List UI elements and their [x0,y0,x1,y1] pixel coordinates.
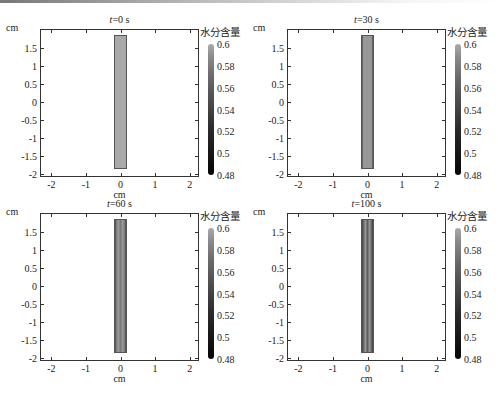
y-tick-mark [288,358,291,359]
x-tick-mark [86,214,87,217]
x-tick-mark [190,357,191,360]
x-tick-mark [86,30,87,33]
colorbar-tick-label: 0.54 [464,288,482,299]
y-tick-label: -2 [276,353,284,364]
y-tick-mark [442,358,445,359]
y-tick-label: -1.5 [21,151,37,162]
y-tick-label: 1.5 [25,43,38,54]
y-tick-mark [442,340,445,341]
y-tick-label: 1.5 [272,43,285,54]
colorbar-tick-label: 0.5 [217,148,230,159]
y-tick-label: -1.5 [268,335,284,346]
x-tick-mark [190,30,191,33]
x-tick-mark [402,214,403,217]
y-tick-mark [41,232,44,233]
y-tick-mark [442,84,445,85]
y-tick-mark [195,340,198,341]
x-tick-mark [155,214,156,217]
time-value: =0 s [112,14,129,25]
y-tick-mark [195,48,198,49]
y-tick-mark [288,174,291,175]
y-tick-mark [288,304,291,305]
plot-area: -2-10121.510.50-0.5-1-1.5-2 [287,29,446,177]
y-tick-label: -2 [29,353,37,364]
y-tick-mark [442,156,445,157]
y-tick-mark [442,304,445,305]
y-tick-label: 1 [279,245,284,256]
y-tick-mark [288,138,291,139]
colorbar-tick-label: 0.58 [217,60,235,71]
x-tick-mark [402,30,403,33]
y-tick-label: -1 [276,133,284,144]
y-tick-mark [195,174,198,175]
x-tick-mark [51,357,52,360]
y-tick-label: -0.5 [21,299,37,310]
y-tick-mark [41,84,44,85]
y-tick-mark [442,138,445,139]
y-tick-mark [41,286,44,287]
x-tick-mark [437,357,438,360]
y-tick-mark [41,358,44,359]
colorbar-tick-label: 0.5 [464,148,477,159]
x-tick-mark [402,357,403,360]
x-tick-mark [121,30,122,33]
y-tick-mark [41,102,44,103]
x-tick-mark [333,214,334,217]
y-tick-mark [41,138,44,139]
y-tick-mark [442,48,445,49]
y-tick-mark [195,138,198,139]
colorbar-label: 水分含量 [447,208,487,223]
x-tick-mark [86,173,87,176]
y-tick-mark [195,232,198,233]
y-tick-label: 1 [32,61,37,72]
colorbar-tick-label: 0.6 [464,223,477,234]
y-tick-label: 0.5 [25,79,38,90]
colorbar [455,44,461,175]
panel-title: t=100 s [287,198,446,209]
x-tick-mark [298,30,299,33]
y-tick-mark [442,268,445,269]
y-tick-mark [195,66,198,67]
chart-panel: t=30 s cm -2-10121.510.50-0.5-1-1.5-2 cm… [247,0,498,190]
colorbar-tick-label: 0.5 [464,332,477,343]
sample-moisture-field [114,35,128,169]
y-tick-label: -1.5 [268,151,284,162]
y-tick-mark [195,84,198,85]
y-tick-mark [41,174,44,175]
colorbar [455,228,461,359]
y-tick-mark [288,268,291,269]
x-tick-mark [333,173,334,176]
y-tick-label: 1 [32,245,37,256]
colorbar-label: 水分含量 [200,24,240,39]
x-tick-mark [333,30,334,33]
y-tick-label: 0 [279,97,284,108]
x-axis-label: cm [40,373,199,384]
x-tick-mark [298,357,299,360]
y-tick-mark [41,268,44,269]
colorbar-tick-label: 0.56 [217,266,235,277]
colorbar-tick-label: 0.52 [464,126,482,137]
colorbar-tick-label: 0.5 [217,332,230,343]
colorbar-tick-label: 0.48 [217,354,235,365]
chart-panel: t=100 s cm -2-10121.510.50-0.5-1-1.5-2 c… [247,184,498,374]
y-tick-mark [195,322,198,323]
y-tick-mark [41,66,44,67]
x-tick-mark [368,30,369,33]
y-tick-mark [41,322,44,323]
y-tick-mark [442,286,445,287]
y-tick-mark [442,120,445,121]
colorbar-tick-label: 0.52 [217,126,235,137]
y-tick-mark [41,304,44,305]
y-tick-mark [195,250,198,251]
x-tick-mark [51,30,52,33]
x-tick-mark [437,214,438,217]
y-tick-label: 1.5 [25,227,38,238]
x-tick-mark [298,173,299,176]
colorbar-tick-label: 0.48 [464,354,482,365]
colorbar-tick-label: 0.52 [217,310,235,321]
y-tick-mark [195,286,198,287]
y-tick-mark [41,48,44,49]
y-tick-mark [195,156,198,157]
x-tick-mark [368,214,369,217]
x-tick-mark [121,214,122,217]
